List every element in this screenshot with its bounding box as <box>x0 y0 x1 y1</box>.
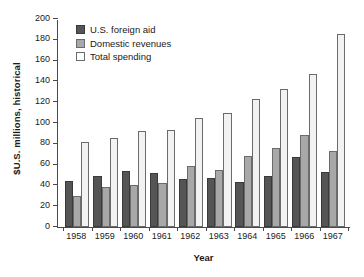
bar-aid <box>65 181 73 227</box>
bar-dom <box>130 185 138 227</box>
x-axis-tick-label: 1961 <box>148 231 177 245</box>
bar-aid <box>292 157 300 227</box>
bar-aid <box>321 172 329 227</box>
y-axis-tick-label: 120 <box>20 96 50 106</box>
bar-dom <box>102 187 110 227</box>
y-axis-tick-label: 0 <box>20 221 50 231</box>
bar-dom <box>158 183 166 227</box>
y-axis-tick-label: 20 <box>20 200 50 210</box>
x-axis-tick-label: 1962 <box>176 231 205 245</box>
bar-dom <box>300 135 308 227</box>
legend-label: U.S. foreign aid <box>90 23 155 37</box>
bar-group <box>177 20 205 227</box>
legend-item: Domestic revenues <box>76 37 171 51</box>
bar-tot <box>138 131 146 227</box>
bar-group <box>290 20 318 227</box>
bar-aid <box>235 182 243 227</box>
bar-aid <box>93 176 101 227</box>
y-axis-tick-label: 180 <box>20 33 50 43</box>
legend-item: Total spending <box>76 50 171 64</box>
bar-tot <box>309 74 317 227</box>
bar-tot <box>110 138 118 227</box>
y-axis-tick-label: 200 <box>20 13 50 23</box>
x-axis-tick-label: 1963 <box>205 231 234 245</box>
legend-swatch-icon <box>76 39 85 48</box>
bar-group <box>319 20 347 227</box>
y-axis-tick-label: 80 <box>20 137 50 147</box>
legend-label: Domestic revenues <box>90 37 171 51</box>
legend-label: Total spending <box>90 50 151 64</box>
x-axis-tick-label: 1966 <box>290 231 319 245</box>
x-axis-tick-label: 1964 <box>233 231 262 245</box>
bar-dom <box>215 170 223 227</box>
bar-tot <box>280 89 288 227</box>
bar-tot <box>337 34 345 227</box>
bar-tot <box>223 113 231 227</box>
y-axis-tick-label: 40 <box>20 179 50 189</box>
y-axis-tick-label: 160 <box>20 54 50 64</box>
legend-item: U.S. foreign aid <box>76 23 171 37</box>
x-axis-tick-label: 1959 <box>91 231 120 245</box>
x-axis-tick-label: 1958 <box>62 231 91 245</box>
x-axis-tick-label: 1960 <box>119 231 148 245</box>
bar-dom <box>272 148 280 227</box>
x-axis-tick-label: 1967 <box>319 231 348 245</box>
y-axis-tick-label: 60 <box>20 158 50 168</box>
bar-group <box>233 20 261 227</box>
bar-dom <box>187 166 195 227</box>
y-axis-tick-label: 100 <box>20 117 50 127</box>
bar-dom <box>73 196 81 227</box>
bar-tot <box>195 118 203 227</box>
bar-dom <box>244 156 252 227</box>
bar-dom <box>329 151 337 227</box>
bar-group <box>262 20 290 227</box>
bar-aid <box>179 179 187 227</box>
x-axis-title: Year <box>57 252 350 263</box>
bar-group <box>205 20 233 227</box>
y-axis-tick-label: 140 <box>20 75 50 85</box>
bar-aid <box>122 171 130 227</box>
bar-tot <box>81 142 89 227</box>
bar-tot <box>252 99 260 227</box>
chart-legend: U.S. foreign aidDomestic revenuesTotal s… <box>76 23 171 64</box>
bar-chart: $U.S. millions, historical 0204060801001… <box>0 0 364 277</box>
x-axis-tick-label: 1965 <box>262 231 291 245</box>
y-axis-tick: 200 <box>53 18 58 19</box>
legend-swatch-icon <box>76 52 85 61</box>
bar-aid <box>207 178 215 227</box>
legend-swatch-icon <box>76 25 85 34</box>
x-axis-labels: 1958195919601961196219631964196519661967 <box>57 231 350 245</box>
bar-tot <box>167 130 175 227</box>
bar-aid <box>264 176 272 227</box>
bar-aid <box>150 173 158 227</box>
